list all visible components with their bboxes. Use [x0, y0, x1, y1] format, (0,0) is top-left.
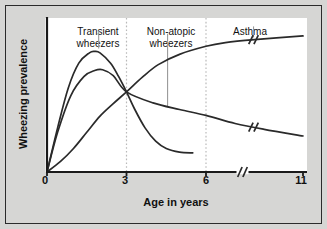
chart-svg	[0, 0, 327, 229]
leader-lines-group	[99, 26, 254, 106]
axis-break-group	[237, 35, 259, 177]
figure-container: Wheezing prevalence Age in years 0 3 6 1…	[0, 0, 327, 229]
curve-non-atopic-wheezers	[47, 69, 303, 172]
curves-group	[47, 36, 303, 172]
